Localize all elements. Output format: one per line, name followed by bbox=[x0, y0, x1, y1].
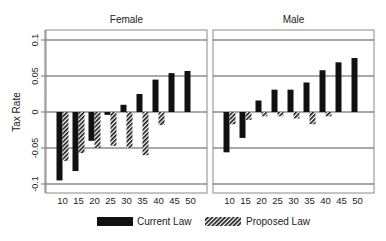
x-tick-label: 10 bbox=[224, 195, 235, 206]
y-tick-label: 0 bbox=[30, 109, 40, 114]
bar-proposed-law bbox=[111, 112, 117, 146]
x-tick-label: 30 bbox=[288, 195, 299, 206]
bar-current-law bbox=[256, 100, 262, 112]
bar-proposed-law bbox=[310, 112, 316, 124]
chart-panels: Female101520253035404550Male101520253035… bbox=[46, 14, 374, 206]
legend-swatch-current-law bbox=[97, 217, 133, 226]
bar-current-law bbox=[105, 112, 111, 115]
tax-rate-chart: Tax Rate -0.1-0.0500.050.1 Female1015202… bbox=[0, 0, 386, 241]
x-tick-label: 15 bbox=[240, 195, 251, 206]
bar-current-law bbox=[89, 112, 95, 141]
bar-current-law bbox=[336, 62, 342, 112]
legend: Current Law Proposed Law bbox=[97, 216, 311, 227]
x-tick-label: 30 bbox=[121, 195, 132, 206]
x-tick-label: 50 bbox=[352, 195, 363, 206]
bar-current-law bbox=[153, 80, 159, 112]
bar-current-law bbox=[352, 58, 358, 112]
x-tick-label: 20 bbox=[89, 195, 100, 206]
x-tick-label: 40 bbox=[153, 195, 164, 206]
bar-current-law bbox=[304, 82, 310, 112]
y-tick-label: -0.1 bbox=[30, 176, 40, 192]
x-tick-label: 35 bbox=[304, 195, 315, 206]
bar-proposed-law bbox=[278, 112, 284, 116]
y-axis-label: Tax Rate bbox=[11, 92, 22, 132]
legend-label-proposed-law: Proposed Law bbox=[246, 216, 311, 227]
x-tick-label: 25 bbox=[272, 195, 283, 206]
bar-proposed-law bbox=[326, 112, 332, 116]
bar-current-law bbox=[185, 71, 191, 112]
bar-proposed-law bbox=[294, 112, 300, 118]
x-tick-label: 15 bbox=[73, 195, 84, 206]
bar-current-law bbox=[137, 94, 143, 112]
bar-proposed-law bbox=[230, 112, 236, 124]
x-tick-label: 10 bbox=[57, 195, 68, 206]
bar-proposed-law bbox=[143, 112, 149, 155]
bar-current-law bbox=[288, 90, 294, 112]
x-tick-label: 50 bbox=[185, 195, 196, 206]
panel-title: Female bbox=[110, 14, 144, 25]
x-tick-label: 25 bbox=[105, 195, 116, 206]
bar-current-law bbox=[73, 112, 79, 171]
bar-proposed-law bbox=[95, 112, 101, 148]
bar-current-law bbox=[57, 112, 63, 180]
panel-male: Male101520253035404550 bbox=[213, 14, 374, 206]
bar-current-law bbox=[121, 105, 127, 112]
bar-proposed-law bbox=[246, 112, 252, 120]
x-tick-label: 35 bbox=[137, 195, 148, 206]
bar-current-law bbox=[320, 70, 326, 112]
x-tick-label: 40 bbox=[320, 195, 331, 206]
bar-proposed-law bbox=[262, 112, 268, 116]
bar-current-law bbox=[272, 90, 278, 112]
bar-current-law bbox=[240, 112, 246, 138]
bar-proposed-law bbox=[79, 112, 85, 153]
legend-swatch-proposed-law bbox=[205, 217, 241, 226]
x-tick-label: 20 bbox=[256, 195, 267, 206]
x-tick-label: 45 bbox=[336, 195, 347, 206]
bar-proposed-law bbox=[127, 112, 133, 148]
x-tick-label: 45 bbox=[169, 195, 180, 206]
y-tick-label: 0.05 bbox=[30, 67, 40, 85]
bar-proposed-law bbox=[63, 112, 69, 161]
y-tick-label: 0.1 bbox=[30, 34, 40, 47]
y-tick-label: -0.05 bbox=[30, 138, 40, 159]
bar-current-law bbox=[169, 73, 175, 112]
legend-label-current-law: Current Law bbox=[137, 216, 192, 227]
y-axis: -0.1-0.0500.050.1 bbox=[30, 30, 45, 193]
panel-title: Male bbox=[283, 14, 305, 25]
bar-proposed-law bbox=[159, 112, 165, 125]
bar-current-law bbox=[224, 112, 230, 152]
panel-female: Female101520253035404550 bbox=[46, 14, 207, 206]
